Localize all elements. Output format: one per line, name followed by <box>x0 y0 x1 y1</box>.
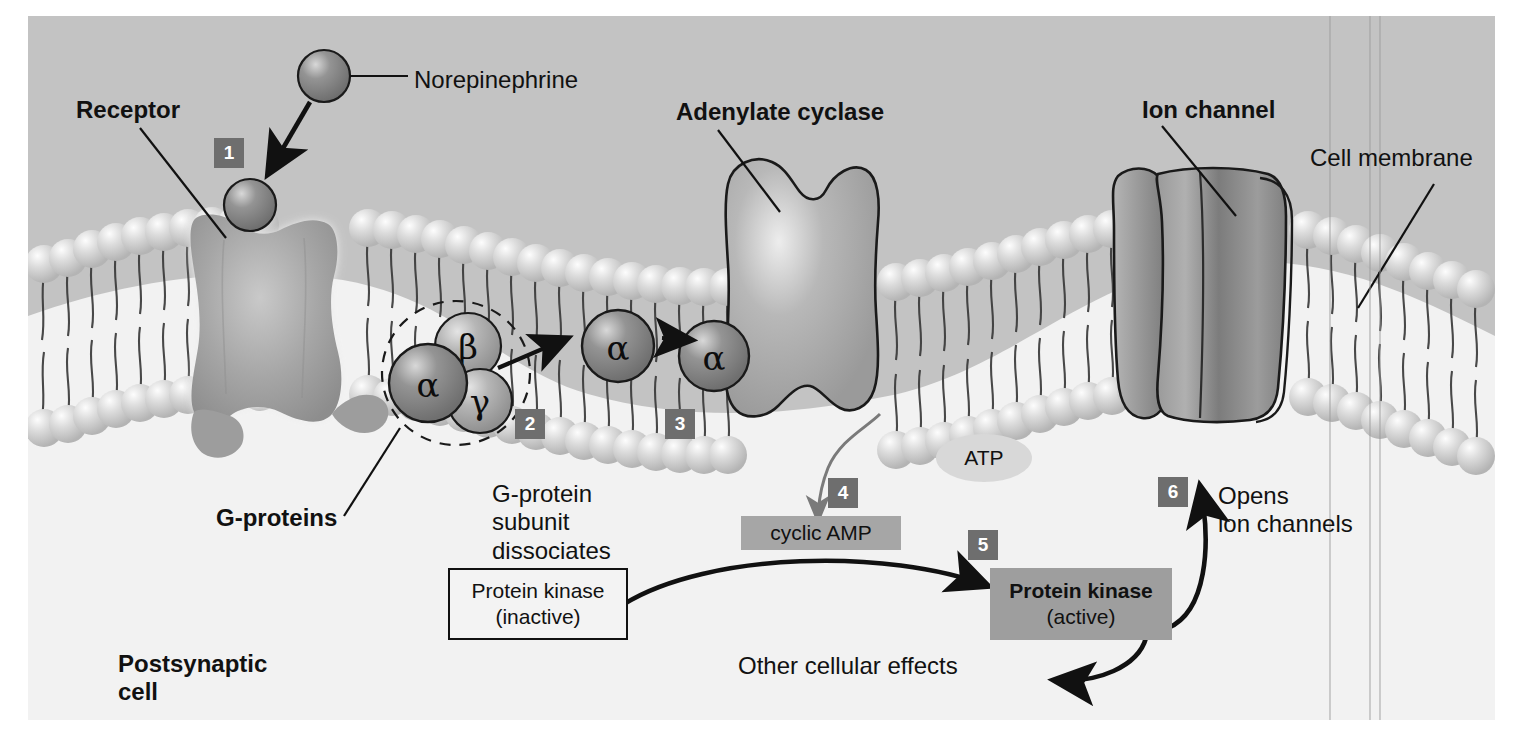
ion-channel-shape <box>1113 168 1292 422</box>
opens-ion-channels-label: Opens ion channels <box>1218 482 1353 539</box>
postsynaptic-cell-label: Postsynaptic cell <box>118 650 267 707</box>
step-badge-1: 1 <box>214 138 244 168</box>
cell-membrane-label: Cell membrane <box>1310 144 1473 172</box>
signal-transduction-figure: β γ α α α <box>28 16 1495 720</box>
protein-kinase-inactive-box: Protein kinase (inactive) <box>448 568 628 640</box>
step-badge-4: 4 <box>828 478 858 508</box>
step-badge-5: 5 <box>968 530 998 560</box>
diagram-stage: β γ α α α <box>0 0 1518 740</box>
cyclic-amp-molecule: cyclic AMP <box>741 516 901 550</box>
alpha-subunit-free: α <box>582 310 654 382</box>
protein-kinase-inactive-line1: Protein kinase <box>471 578 604 604</box>
protein-kinase-active-box: Protein kinase (active) <box>990 568 1172 640</box>
g-proteins-label: G-proteins <box>216 504 337 532</box>
step-badge-6: 6 <box>1158 477 1188 507</box>
ion-channel-label: Ion channel <box>1142 96 1275 124</box>
alpha-label-bound: α <box>417 365 440 405</box>
receptor-label: Receptor <box>76 96 180 124</box>
alpha-label-free: α <box>607 328 630 368</box>
norepinephrine-label: Norepinephrine <box>414 66 578 94</box>
g-protein-dissociates-label: G-protein subunit dissociates <box>492 480 611 565</box>
alpha-subunit-docked: α <box>679 321 749 391</box>
other-cellular-effects-label: Other cellular effects <box>738 652 958 680</box>
adenylate-cyclase-shape <box>725 159 878 416</box>
gamma-label: γ <box>470 382 490 422</box>
adenylate-cyclase-label: Adenylate cyclase <box>676 98 884 126</box>
protein-kinase-inactive-line2: (inactive) <box>495 604 580 630</box>
protein-kinase-active-line2: (active) <box>1047 604 1116 630</box>
norepinephrine-free <box>298 50 350 102</box>
atp-molecule: ATP <box>936 434 1032 482</box>
alpha-label-docked: α <box>703 338 726 378</box>
step-badge-3: 3 <box>665 409 695 439</box>
norepinephrine-bound <box>224 179 276 231</box>
protein-kinase-active-line1: Protein kinase <box>1009 578 1153 604</box>
step-badge-2: 2 <box>515 409 545 439</box>
